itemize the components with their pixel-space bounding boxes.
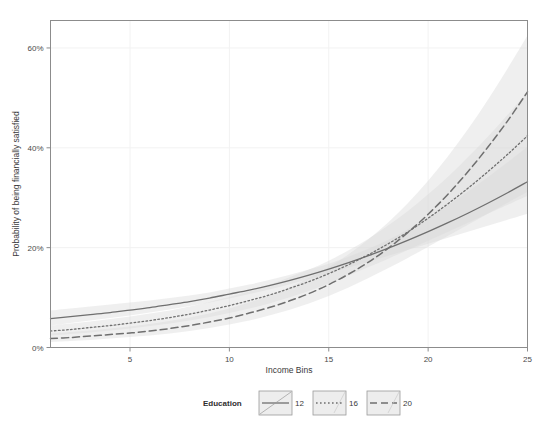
chart-legend: Education121620 [203,391,412,415]
y-axis-ticks: 0%20%40%60% [27,44,50,353]
confidence-band-20 [51,35,528,342]
x-tick-label: 15 [324,355,333,364]
chart-figure: 0%20%40%60% 510152025 Probability of bei… [0,0,549,430]
y-tick-label: 40% [27,144,43,153]
y-tick-label: 20% [27,244,43,253]
x-tick-label: 5 [128,355,133,364]
x-axis-title: Income Bins [266,365,313,375]
legend-label-16: 16 [349,399,358,408]
probability-line-chart: 0%20%40%60% 510152025 Probability of bei… [0,0,549,430]
y-tick-label: 60% [27,44,43,53]
confidence-bands [51,35,528,342]
y-axis-title: Probability of being financially satisfi… [11,111,21,257]
x-tick-label: 20 [424,355,433,364]
x-tick-label: 25 [523,355,532,364]
x-tick-label: 10 [225,355,234,364]
y-tick-label: 0% [32,344,44,353]
x-axis-ticks: 510152025 [128,348,533,364]
legend-title: Education [203,399,242,408]
legend-label-12: 12 [295,399,304,408]
legend-label-20: 20 [403,399,412,408]
